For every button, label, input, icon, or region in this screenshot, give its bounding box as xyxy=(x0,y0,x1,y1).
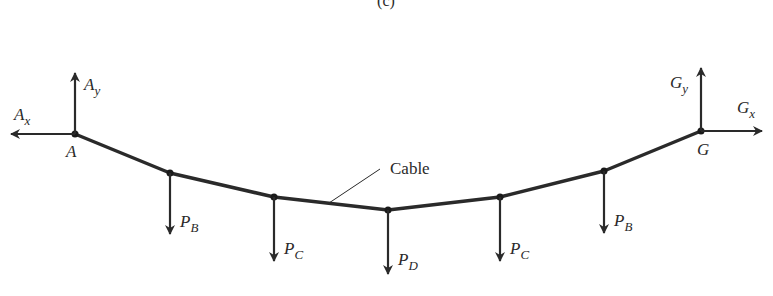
reaction-gx-label: Gx xyxy=(737,98,755,121)
reaction-ay-label: Ay xyxy=(83,75,100,98)
cable-leader-line xyxy=(329,169,380,203)
cable-diagram: (c) Ay Ax A Gy Gx G PB PC PD PC PB Cable xyxy=(0,0,773,296)
load-label-d: PD xyxy=(397,250,418,273)
support-a-label: A xyxy=(65,142,77,161)
figure-caption: (c) xyxy=(377,0,395,10)
reaction-ax-label: Ax xyxy=(13,105,30,128)
support-g-label: G xyxy=(697,140,709,159)
cable-label: Cable xyxy=(390,159,430,178)
load-label-c: PC xyxy=(283,239,303,262)
load-label-e: PC xyxy=(509,239,529,262)
load-label-f: PB xyxy=(613,211,632,234)
reaction-gy-label: Gy xyxy=(670,73,688,96)
load-label-b: PB xyxy=(179,212,198,235)
